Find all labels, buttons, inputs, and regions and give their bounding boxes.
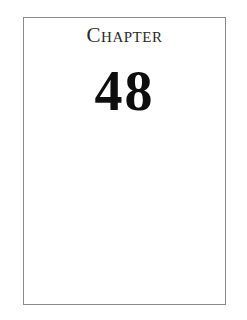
chapter-page-frame: Chapter 48 (23, 17, 226, 305)
chapter-heading: Chapter (24, 25, 225, 46)
chapter-number: 48 (24, 63, 225, 119)
